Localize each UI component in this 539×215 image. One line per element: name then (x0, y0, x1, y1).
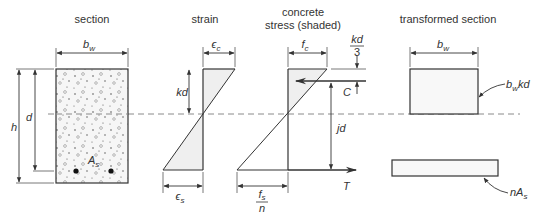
stress-panel: fc C kd 3 jd T fs n (237, 33, 366, 214)
compression-label: C (343, 86, 351, 98)
reinforced-concrete-beam-diagram: section strain concrete stress (shaded) … (0, 0, 539, 215)
stress-title-line2: stress (shaded) (265, 19, 341, 31)
transformed-steel-area (392, 160, 498, 176)
transformed-title: transformed section (400, 13, 497, 25)
svg-text:kd: kd (351, 33, 364, 45)
section-title: section (75, 13, 110, 25)
stress-title-line1: concrete (282, 6, 324, 18)
svg-text:jd: jd (335, 122, 346, 134)
svg-text:fc: fc (301, 38, 308, 53)
svg-text:3: 3 (354, 46, 360, 58)
transformed-panel: bw bwkd nAs (392, 38, 530, 201)
rebar-left (73, 168, 78, 173)
section-panel: bw h d As (11, 38, 128, 183)
stress-distribution-line (237, 69, 327, 170)
d-label: d (26, 111, 33, 123)
svg-text:ϵs: ϵs (176, 190, 185, 205)
svg-text:fs: fs (258, 188, 265, 202)
svg-text:bwkd: bwkd (506, 78, 530, 93)
svg-text:bw: bw (437, 38, 450, 53)
rebar-right (108, 168, 113, 173)
svg-text:kd: kd (176, 86, 189, 98)
tension-label: T (343, 180, 351, 192)
svg-text:nAs: nAs (510, 186, 527, 201)
svg-text:ϵc: ϵc (212, 38, 221, 53)
svg-text:bw: bw (83, 38, 96, 53)
strain-title: strain (192, 13, 219, 25)
h-label: h (11, 121, 17, 133)
strain-panel: ϵc kd ϵs (163, 38, 235, 205)
svg-text:n: n (259, 202, 265, 214)
transformed-concrete-area (410, 69, 478, 114)
